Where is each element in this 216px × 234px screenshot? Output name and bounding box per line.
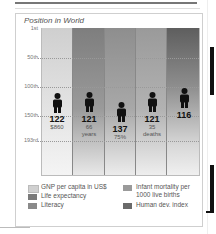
y-tick: 193rd [18, 137, 38, 143]
legend-swatch [123, 203, 132, 209]
bottom-rule [0, 227, 30, 228]
rank-value: 137 [105, 124, 135, 134]
plot-area: 1st 50th 100th 150th 193rd 122 $860 121 … [41, 28, 200, 176]
person-icon [50, 93, 64, 113]
legend-swatch [28, 203, 37, 209]
y-tick: 50th [18, 54, 38, 60]
legend-swatch [28, 185, 39, 193]
chart-title: Position in World [24, 16, 84, 25]
scrollbar-hook [206, 211, 214, 213]
top-rule [15, 2, 197, 4]
rank-value: 116 [169, 110, 199, 120]
person-icon [177, 88, 191, 108]
rank-value: 122 [42, 114, 72, 124]
chart-panel: Position in World 1st 50th 100th 150th 1… [15, 13, 203, 227]
y-tick: 1st [18, 25, 38, 31]
person-icon [82, 92, 96, 112]
scrollbar-thumb-lower[interactable] [210, 165, 214, 213]
top-rule-thin [15, 8, 200, 9]
y-tick: 150th [18, 112, 38, 118]
person-icon [145, 92, 159, 112]
rank-value: 121 [74, 114, 104, 124]
scrollbar-thumb[interactable] [210, 47, 214, 95]
gridline [38, 141, 199, 142]
legend-swatch [123, 185, 132, 191]
y-tick: 100th [18, 83, 38, 89]
column-sublabel: $860 [42, 124, 72, 131]
column-sublabel: 75% [105, 134, 135, 141]
column-sublabel: deaths [137, 131, 167, 138]
column-sublabel: years [74, 131, 104, 138]
column-sublabel: 35 [137, 124, 167, 131]
rank-value: 121 [137, 114, 167, 124]
person-icon [114, 102, 128, 122]
gridline [38, 58, 199, 59]
gridline [38, 87, 199, 88]
column-sublabel: 66 [74, 124, 104, 131]
legend-swatch [28, 194, 37, 200]
